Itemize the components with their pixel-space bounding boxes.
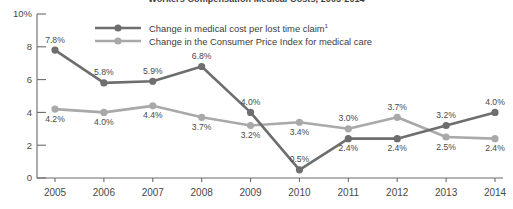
- legend-item-1: Change in medical cost per lost time cla…: [95, 22, 329, 34]
- data-label-2-2005: 4.2%: [45, 114, 65, 124]
- legend-swatch-marker-2: [114, 37, 121, 44]
- line-chart: 0246810%20052006200720082009201020112012…: [0, 0, 513, 209]
- data-point-2-2005: [51, 106, 58, 113]
- data-label-1-2014: 4.0%: [485, 97, 505, 107]
- data-point-1-2013: [443, 122, 450, 129]
- data-point-2-2013: [443, 133, 450, 140]
- data-label-2-2013: 2.5%: [436, 142, 456, 152]
- data-point-2-2010: [296, 119, 303, 126]
- legend-item-2: Change in the Consumer Price Index for m…: [95, 36, 372, 47]
- data-label-1-2008: 6.8%: [192, 51, 212, 61]
- data-point-2-2007: [149, 102, 156, 109]
- data-label-1-2010: 0.5%: [290, 154, 310, 164]
- y-axis-tick-label: 4: [27, 107, 32, 118]
- data-label-1-2012: 2.4%: [387, 143, 407, 153]
- data-point-2-2014: [491, 135, 498, 142]
- y-axis-tick-label: 8: [27, 41, 32, 52]
- chart-container: Workers Compensation Medical Costs, 2005…: [0, 0, 513, 209]
- data-label-2-2012: 3.7%: [387, 102, 407, 112]
- data-point-1-2010: [296, 166, 303, 173]
- data-point-1-2009: [247, 109, 254, 116]
- data-label-1-2007: 5.9%: [143, 66, 163, 76]
- data-label-2-2014: 2.4%: [485, 143, 505, 153]
- x-axis-tick-label: 2014: [484, 187, 507, 198]
- data-point-1-2011: [345, 135, 352, 142]
- legend-label-2: Change in the Consumer Price Index for m…: [149, 36, 372, 47]
- x-axis-tick-label: 2011: [338, 187, 360, 198]
- data-point-1-2014: [491, 109, 498, 116]
- x-axis-tick-label: 2009: [239, 187, 262, 198]
- x-axis-tick-label: 2007: [142, 187, 165, 198]
- x-axis-tick-label: 2012: [386, 187, 409, 198]
- legend-footnote-marker: 1: [325, 22, 329, 29]
- data-point-2-2009: [247, 122, 254, 129]
- x-axis-tick-label: 2005: [44, 187, 67, 198]
- data-point-1-2012: [394, 135, 401, 142]
- data-point-2-2012: [394, 114, 401, 121]
- data-label-2-2011: 3.0%: [339, 113, 359, 123]
- data-label-2-2010: 3.4%: [290, 127, 310, 137]
- data-point-2-2011: [345, 125, 352, 132]
- x-axis-tick-label: 2010: [288, 187, 311, 198]
- x-axis-tick-label: 2013: [435, 187, 458, 198]
- data-point-1-2005: [51, 46, 58, 53]
- data-label-1-2013: 3.2%: [436, 110, 456, 120]
- data-label-2-2006: 4.0%: [94, 117, 114, 127]
- data-point-2-2006: [100, 109, 107, 116]
- data-point-1-2006: [100, 79, 107, 86]
- series-line-2: [55, 106, 495, 139]
- data-label-2-2008: 3.7%: [192, 122, 212, 132]
- data-label-1-2006: 5.8%: [94, 67, 114, 77]
- y-axis-tick-label: 10%: [13, 8, 33, 19]
- legend-swatch-marker-1: [114, 24, 121, 31]
- y-axis-tick-label: 0: [27, 172, 32, 183]
- data-point-2-2008: [198, 114, 205, 121]
- data-point-1-2008: [198, 63, 205, 70]
- x-axis-tick-label: 2008: [191, 187, 214, 198]
- data-label-2-2009: 3.2%: [241, 130, 261, 140]
- data-label-1-2009: 4.0%: [241, 97, 261, 107]
- y-axis-tick-label: 6: [27, 74, 32, 85]
- data-label-1-2011: 2.4%: [339, 143, 359, 153]
- y-axis-tick-label: 2: [27, 140, 32, 151]
- data-label-1-2005: 7.8%: [45, 35, 65, 45]
- data-point-1-2007: [149, 78, 156, 85]
- x-axis-tick-label: 2006: [93, 187, 116, 198]
- data-label-2-2007: 4.4%: [143, 110, 163, 120]
- legend-label-1: Change in medical cost per lost time cla…: [149, 22, 329, 34]
